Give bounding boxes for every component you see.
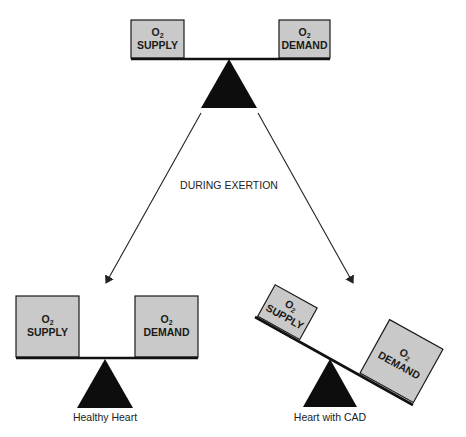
healthy-supply-text: SUPPLY	[27, 326, 68, 338]
healthy-heart-caption: Healthy Heart	[73, 411, 137, 423]
arrow-to-healthy	[106, 113, 201, 283]
cad-fulcrum-triangle	[303, 359, 357, 407]
top-balance: O2 SUPPLY O2 DEMAND	[131, 20, 330, 108]
healthy-demand-text: DEMAND	[143, 326, 189, 338]
oxygen-balance-diagram: O2 SUPPLY O2 DEMAND DURING EXERTION O2 S…	[0, 0, 466, 437]
healthy-fulcrum-triangle	[77, 359, 133, 408]
top-fulcrum-triangle	[201, 59, 257, 108]
top-supply-text: SUPPLY	[137, 39, 178, 51]
arrow-to-cad	[258, 113, 353, 283]
top-demand-text: DEMAND	[281, 39, 327, 51]
healthy-heart-balance: O2 SUPPLY O2 DEMAND Healthy Heart	[16, 296, 198, 423]
cad-heart-caption: Heart with CAD	[294, 411, 367, 423]
during-exertion-label: DURING EXERTION	[180, 179, 278, 191]
cad-heart-balance: O2 SUPPLY O2 DEMAND Heart with CAD	[255, 263, 443, 423]
